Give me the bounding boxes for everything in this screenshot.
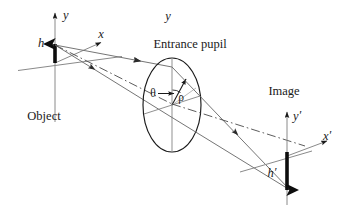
image-plane-group: Image y′ x′ h′ <box>240 84 332 205</box>
image-label: Image <box>268 84 300 98</box>
axis-label-x-prime: x′ <box>322 128 332 143</box>
image-height-label: h′ <box>268 165 277 180</box>
object-label: Object <box>27 109 61 123</box>
entrance-pupil-label: Entrance pupil <box>153 37 227 51</box>
diagram-canvas: y x h Object y Entrance pupil <box>0 0 347 212</box>
pupil-angle-label: θ <box>150 87 156 99</box>
axis-label-x: x <box>97 27 104 41</box>
axis-label-y-prime: y′ <box>291 108 302 123</box>
object-plane-group: y x h Object <box>18 9 171 123</box>
object-height-label: h <box>38 36 44 50</box>
entrance-pupil-group: Entrance pupil θ ρ <box>143 37 227 152</box>
object-z-axis <box>18 57 122 71</box>
optics-ray-diagram: y x h Object y Entrance pupil <box>0 0 347 212</box>
image-x-axis <box>287 141 327 156</box>
axis-label-y: y <box>163 9 171 23</box>
axis-label-y-top: y <box>61 8 69 22</box>
pupil-radius-label: ρ <box>178 91 184 104</box>
rays-object-to-pupil <box>55 45 172 115</box>
